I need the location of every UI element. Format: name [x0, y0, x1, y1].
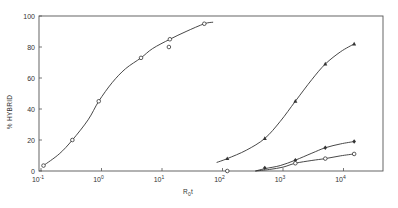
data-point-open-circle: [352, 152, 356, 156]
x-tick-label: 102: [214, 174, 225, 183]
data-point-open-circle: [225, 169, 229, 173]
data-point-open-circle: [139, 56, 143, 60]
series-curves: [44, 22, 355, 171]
y-tick-label: 0: [31, 168, 35, 175]
x-tick-label: 101: [154, 174, 165, 183]
y-tick-label: 60: [27, 75, 35, 82]
x-axis-label: R0t: [183, 188, 193, 197]
y-tick-label: 80: [27, 44, 35, 51]
data-point-open-circle: [71, 138, 75, 142]
plot-frame: [39, 16, 383, 171]
chart: 020406080100 10-1100101102103104 % HYBRI…: [0, 0, 398, 208]
y-tick-label: 40: [27, 106, 35, 113]
y-tick-label: 20: [27, 137, 35, 144]
data-point-filled-triangle: [352, 42, 356, 46]
y-tick-label: 100: [23, 13, 35, 20]
x-tick-label: 10-1: [32, 174, 44, 183]
data-point-open-circle: [202, 22, 206, 26]
data-point-open-circle: [97, 99, 101, 103]
plot-area: 020406080100 10-1100101102103104 % HYBRI…: [0, 0, 398, 208]
x-tick-label: 103: [275, 174, 286, 183]
series-line-open-circles-fast: [44, 22, 214, 165]
data-point-open-circle: [42, 164, 46, 168]
data-point-filled-diamond: [323, 146, 327, 150]
x-tick-label: 100: [93, 174, 104, 183]
data-point-open-circle: [167, 45, 171, 49]
x-axis: 10-1100101102103104: [32, 168, 346, 183]
data-point-open-circle: [323, 157, 327, 161]
y-axis-label: % HYBRID: [6, 95, 13, 130]
data-point-open-circle: [168, 37, 172, 41]
series-markers: [42, 22, 356, 173]
series-line-filled-triangles: [217, 44, 355, 163]
data-point-open-circle: [294, 161, 298, 165]
x-tick-label: 104: [335, 174, 346, 183]
data-point-filled-diamond: [352, 139, 356, 143]
